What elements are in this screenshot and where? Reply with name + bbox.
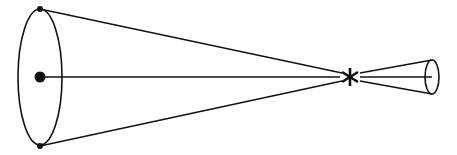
top-point — [37, 6, 43, 12]
cone-diagram — [0, 0, 457, 155]
focal-point-asterisk-icon — [342, 68, 358, 86]
center-dot — [35, 72, 46, 83]
lower-cone-line — [40, 81, 342, 146]
upper-cone-line — [40, 9, 342, 73]
lower-small-cone-line — [360, 81, 432, 94]
bottom-point — [37, 143, 43, 149]
upper-small-cone-line — [360, 60, 432, 73]
diagram-svg — [0, 0, 457, 155]
